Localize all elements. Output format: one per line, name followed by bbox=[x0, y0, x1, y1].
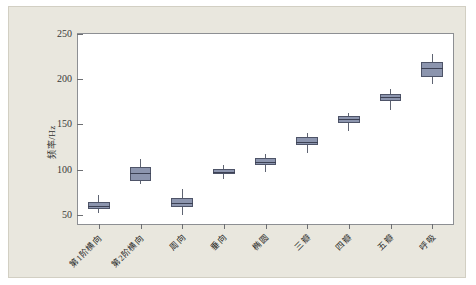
box-plot-6 bbox=[338, 34, 360, 224]
x-axis-label-0: 第1阶横向 bbox=[66, 231, 104, 269]
lower-whisker bbox=[182, 207, 183, 215]
y-tick-mark bbox=[77, 170, 83, 171]
box-plot-5 bbox=[296, 34, 318, 224]
median-line bbox=[255, 162, 277, 163]
y-tick-mark bbox=[77, 34, 83, 35]
y-tick-label: 250 bbox=[57, 29, 72, 39]
y-axis-title: 频率/Hz bbox=[45, 125, 58, 159]
x-axis-label-6: 四瓣 bbox=[332, 231, 354, 253]
upper-whisker bbox=[432, 54, 433, 62]
x-axis-label-5: 三瓣 bbox=[291, 231, 313, 253]
y-tick-200: 200 bbox=[77, 79, 83, 80]
x-tick-8 bbox=[432, 224, 433, 229]
y-tick-mark bbox=[77, 215, 83, 216]
lower-whisker bbox=[390, 101, 391, 110]
plot-area: 50100150200250 bbox=[77, 33, 454, 225]
figure-background: 频率/Hz 50100150200250 第1阶横向第2阶横向周向垂向椭圆三瓣四… bbox=[8, 6, 466, 278]
lower-whisker bbox=[432, 77, 433, 84]
x-tick-2 bbox=[182, 224, 183, 229]
upper-whisker bbox=[98, 195, 99, 202]
x-axis-label-4: 椭圆 bbox=[249, 231, 271, 253]
lower-whisker bbox=[307, 145, 308, 152]
y-tick-label: 50 bbox=[62, 210, 72, 220]
median-line bbox=[338, 119, 360, 120]
box-plot-3 bbox=[213, 34, 235, 224]
box-plot-0 bbox=[88, 34, 110, 224]
upper-whisker bbox=[182, 189, 183, 198]
median-line bbox=[380, 97, 402, 98]
lower-whisker bbox=[265, 165, 266, 171]
lower-whisker bbox=[140, 181, 141, 185]
box-plot-1 bbox=[130, 34, 152, 224]
y-tick-100: 100 bbox=[77, 170, 83, 171]
x-tick-3 bbox=[224, 224, 225, 229]
upper-whisker bbox=[140, 159, 141, 167]
y-tick-label: 200 bbox=[57, 74, 72, 84]
box-plot-8 bbox=[421, 34, 443, 224]
box-plot-4 bbox=[255, 34, 277, 224]
x-tick-7 bbox=[391, 224, 392, 229]
x-axis-label-2: 周向 bbox=[166, 231, 188, 253]
y-tick-mark bbox=[77, 124, 83, 125]
y-tick-label: 100 bbox=[57, 165, 72, 175]
y-tick-250: 250 bbox=[77, 34, 83, 35]
x-axis-label-8: 呼吸 bbox=[416, 231, 438, 253]
y-tick-label: 150 bbox=[57, 119, 72, 129]
chart-screenshot: 频率/Hz 50100150200250 第1阶横向第2阶横向周向垂向椭圆三瓣四… bbox=[0, 0, 476, 285]
x-axis-label-3: 垂向 bbox=[207, 231, 229, 253]
x-axis-label-7: 五瓣 bbox=[374, 231, 396, 253]
lower-whisker bbox=[98, 209, 99, 214]
box-plot-7 bbox=[380, 34, 402, 224]
lower-whisker bbox=[348, 123, 349, 131]
median-line bbox=[296, 142, 318, 143]
median-line bbox=[88, 206, 110, 207]
lower-whisker bbox=[223, 174, 224, 179]
x-tick-4 bbox=[266, 224, 267, 229]
y-tick-50: 50 bbox=[77, 215, 83, 216]
x-axis-label-1: 第2阶横向 bbox=[108, 231, 146, 269]
median-line bbox=[213, 172, 235, 173]
x-tick-0 bbox=[99, 224, 100, 229]
x-tick-6 bbox=[349, 224, 350, 229]
median-line bbox=[130, 173, 152, 174]
median-line bbox=[171, 203, 193, 204]
x-tick-5 bbox=[307, 224, 308, 229]
median-line bbox=[421, 68, 443, 69]
y-tick-mark bbox=[77, 79, 83, 80]
box-plot-2 bbox=[171, 34, 193, 224]
y-tick-150: 150 bbox=[77, 124, 83, 125]
x-tick-1 bbox=[141, 224, 142, 229]
